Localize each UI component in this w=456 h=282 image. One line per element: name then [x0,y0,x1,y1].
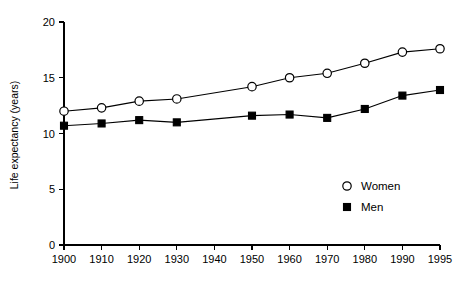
x-tick-label: 1940 [202,253,226,265]
y-tick-label: 10 [43,128,55,140]
legend-marker-men [344,204,351,211]
x-tick-label: 1920 [127,253,151,265]
x-tick-label: 1910 [89,253,113,265]
data-point-women [323,69,331,77]
data-point-men [98,120,105,127]
data-point-men [324,114,331,121]
x-tick-label: 1960 [277,253,301,265]
y-tick-label: 15 [43,72,55,84]
legend-label-women: Women [361,180,400,192]
x-tick-label: 1930 [165,253,189,265]
data-point-men [136,117,143,124]
data-point-women [97,104,105,112]
data-point-men [173,119,180,126]
data-point-women [135,97,143,105]
data-point-women [248,82,256,90]
data-point-men [286,111,293,118]
x-tick-label: 1980 [353,253,377,265]
y-tick-label: 0 [49,239,55,251]
data-point-women [361,59,369,67]
data-point-women [436,45,444,53]
data-point-men [437,87,444,94]
line-chart: Life expectancy (years) 05101520 1900191… [0,0,456,282]
y-tick-label: 20 [43,16,55,28]
y-axis-title: Life expectancy (years) [8,81,20,190]
x-tick-label: 1900 [52,253,76,265]
chart-background [0,0,456,282]
x-tick-label: 1970 [315,253,339,265]
y-tick-label: 5 [49,183,55,195]
x-tick-label: 1990 [390,253,414,265]
data-point-men [249,112,256,119]
data-point-men [399,92,406,99]
data-point-men [61,122,68,129]
data-point-women [398,48,406,56]
chart-canvas: Life expectancy (years) 05101520 1900191… [0,0,456,282]
x-tick-label: 1950 [240,253,264,265]
legend-marker-women [343,182,351,190]
data-point-women [173,95,181,103]
data-point-men [361,105,368,112]
data-point-women [60,107,68,115]
legend-label-men: Men [361,201,383,213]
data-point-women [285,74,293,82]
x-tick-label: 1995 [428,253,452,265]
